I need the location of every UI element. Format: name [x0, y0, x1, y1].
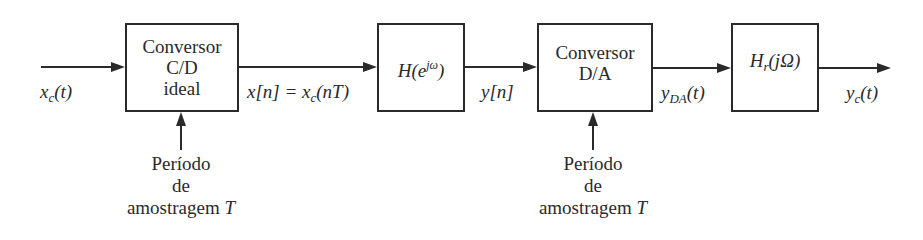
arrowhead-icon: [877, 63, 891, 73]
reconstruction-filter-block: Hr(jΩ): [731, 23, 819, 112]
cd-sampling-line: [180, 124, 182, 150]
arrowhead-icon: [363, 62, 377, 72]
arrowhead-up-icon: [588, 112, 598, 126]
xn-signal-label: x[n] = xc(nT): [247, 81, 349, 106]
cd-block-line-2: C/D: [166, 57, 198, 78]
da-converter-block: Conversor D/A: [537, 23, 653, 112]
input-signal-line: [41, 66, 113, 68]
arrowhead-icon: [111, 62, 125, 72]
output-signal-label: yc(t): [846, 82, 878, 107]
arrowhead-icon: [523, 62, 537, 72]
yda-signal-label: yDA(t): [661, 82, 705, 107]
yda-signal-line: [653, 67, 719, 69]
arrowhead-icon: [717, 63, 731, 73]
yn-signal-line: [465, 66, 525, 68]
discrete-filter-block: H(ejω): [377, 23, 465, 112]
input-signal-label: xc(t): [40, 81, 72, 106]
da-sampling-caption: Período de amostragem T: [513, 153, 673, 219]
yn-signal-label: y[n]: [481, 81, 514, 103]
cd-sampling-caption: Período de amostragem T: [101, 153, 261, 219]
da-sampling-line: [592, 124, 594, 150]
cd-block-line-1: Conversor: [142, 36, 221, 57]
da-block-line-2: D/A: [579, 63, 612, 84]
output-signal-line: [819, 67, 879, 69]
da-block-line-1: Conversor: [555, 42, 634, 63]
arrowhead-up-icon: [176, 112, 186, 126]
cd-block-line-3: ideal: [164, 78, 201, 99]
cd-converter-block: Conversor C/D ideal: [125, 23, 239, 112]
xn-signal-line: [239, 66, 365, 68]
